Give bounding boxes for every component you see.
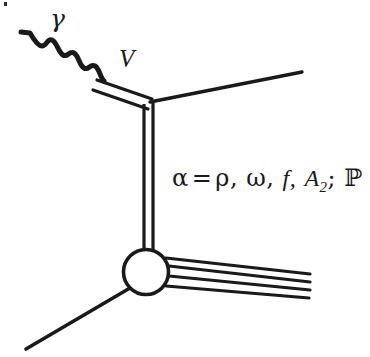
incoming-target-line — [26, 288, 130, 349]
vector-meson-label: V — [119, 46, 134, 71]
exchange-formula: α=ρ, ω, f, A2; ℙ — [172, 166, 363, 195]
exchange-double-line — [144, 100, 153, 252]
photon-label: γ — [50, 6, 65, 31]
exchange-rho: ρ, — [215, 164, 238, 192]
scan-speck — [4, 2, 7, 6]
exchange-a2-subscript: 2 — [320, 179, 328, 195]
outgoing-hadron-lines — [166, 258, 310, 298]
exchange-f: f, — [283, 165, 297, 191]
photon-line — [21, 32, 104, 81]
exchange-semicolon: ; — [328, 164, 337, 192]
exchange-equals: = — [189, 164, 216, 192]
outgoing-upper-line — [150, 72, 302, 102]
exchange-pomeron: ℙ — [344, 164, 363, 192]
exchange-a2: A — [304, 165, 319, 191]
exchange-omega: ω, — [246, 164, 274, 192]
feynman-diagram-figure: γ V α=ρ, ω, f, A2; ℙ — [0, 0, 370, 357]
exchange-alpha-symbol: α — [172, 164, 189, 192]
